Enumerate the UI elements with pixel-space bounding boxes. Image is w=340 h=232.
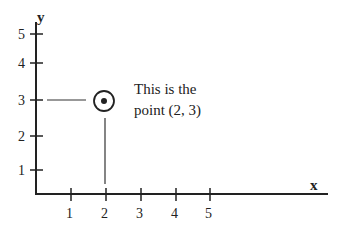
y-axis-label: y	[37, 9, 45, 25]
x-tick-label: 5	[205, 206, 212, 221]
x-tick-label: 3	[136, 206, 143, 221]
x-tick-label: 2	[101, 206, 108, 221]
coordinate-plane: 5 4 3 2 1 1 2 3 4 5 y x This is the poin…	[0, 0, 340, 232]
y-tick-label: 2	[18, 129, 25, 144]
x-axis-label: x	[310, 177, 318, 193]
y-tick-label: 5	[18, 27, 25, 42]
y-tick-label: 3	[18, 93, 25, 108]
y-tick-label: 4	[18, 56, 25, 71]
y-tick-label: 1	[18, 163, 25, 178]
x-tick-label: 4	[171, 206, 178, 221]
point-marker-dot	[101, 98, 107, 104]
annotation-line-1: This is the	[134, 81, 197, 97]
x-tick-label: 1	[66, 206, 73, 221]
annotation-line-2: point (2, 3)	[134, 102, 201, 119]
